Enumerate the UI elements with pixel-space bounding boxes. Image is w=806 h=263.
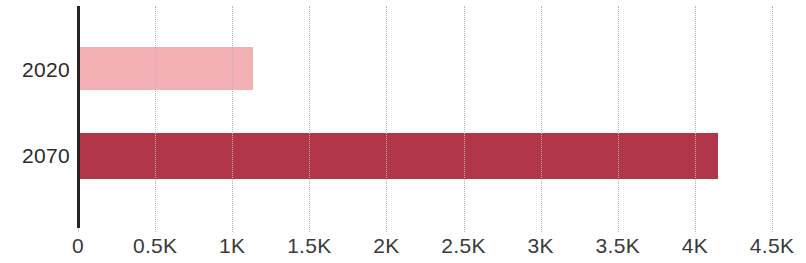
x-tick-label-3.5K: 3.5K bbox=[596, 234, 640, 258]
plot-area bbox=[0, 0, 806, 263]
x-tick-label-3K: 3K bbox=[528, 234, 554, 258]
gridline-1.5K bbox=[309, 6, 310, 232]
y-tick-label-2070: 2070 bbox=[22, 144, 70, 168]
x-tick-label-0.5K: 0.5K bbox=[133, 234, 177, 258]
gridline-4.5K bbox=[772, 6, 773, 232]
x-tick-label-4.5K: 4.5K bbox=[750, 234, 794, 258]
gridline-2.5K bbox=[464, 6, 465, 232]
gridline-2K bbox=[386, 6, 387, 232]
x-tick-label-1K: 1K bbox=[219, 234, 245, 258]
gridline-1K bbox=[232, 6, 233, 232]
bar-chart: 20202070 00.5K1K1.5K2K2.5K3K3.5K4K4.5K bbox=[0, 0, 806, 263]
y-axis-line bbox=[77, 6, 80, 228]
x-tick-label-2K: 2K bbox=[373, 234, 399, 258]
x-tick-label-0: 0 bbox=[72, 234, 84, 258]
y-tick-label-2020: 2020 bbox=[22, 58, 70, 82]
x-tick-label-1.5K: 1.5K bbox=[287, 234, 331, 258]
gridline-4K bbox=[695, 6, 696, 232]
gridline-3.5K bbox=[618, 6, 619, 232]
x-tick-label-2.5K: 2.5K bbox=[441, 234, 485, 258]
gridline-0.5K bbox=[155, 6, 156, 232]
bar-2020[interactable] bbox=[79, 47, 253, 90]
x-tick-label-4K: 4K bbox=[682, 234, 708, 258]
bar-2070[interactable] bbox=[79, 133, 718, 179]
gridline-3K bbox=[541, 6, 542, 232]
